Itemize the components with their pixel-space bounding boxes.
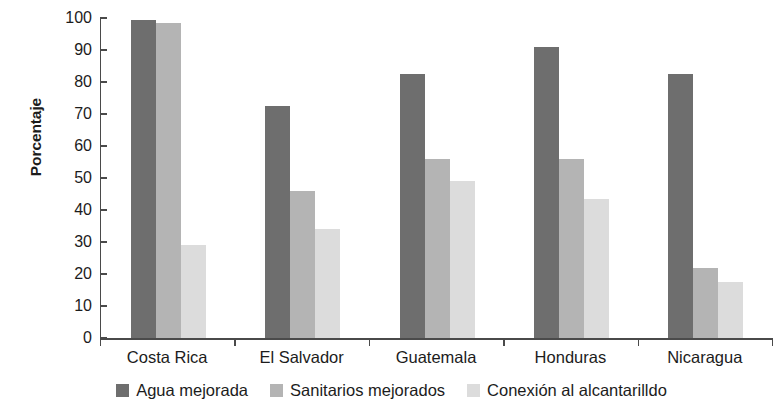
legend-swatch-icon xyxy=(270,384,283,397)
x-axis-line xyxy=(100,338,772,340)
y-axis-tick-label: 30 xyxy=(46,234,92,250)
x-axis-category-label: Guatemala xyxy=(369,348,503,367)
bar xyxy=(559,159,584,338)
y-axis-tick-label: 20 xyxy=(46,266,92,282)
y-axis-tick-label: 70 xyxy=(46,106,92,122)
legend-swatch-icon xyxy=(467,384,480,397)
bar xyxy=(156,23,181,338)
bar xyxy=(668,74,693,338)
bar-group xyxy=(400,18,475,338)
bar xyxy=(290,191,315,338)
bar-group xyxy=(131,18,206,338)
bar xyxy=(181,245,206,338)
legend-label: Sanitarios mejorados xyxy=(290,382,445,399)
y-axis-tick-label: 10 xyxy=(46,298,92,314)
y-axis-tick-label: 60 xyxy=(46,138,92,154)
plot-area xyxy=(100,18,772,338)
y-axis-title: Porcentaje xyxy=(27,77,45,197)
bar xyxy=(584,199,609,338)
y-axis-tick-label: 40 xyxy=(46,202,92,218)
bar xyxy=(400,74,425,338)
bar-chart: Porcentaje 1009080706050403020100 Costa … xyxy=(0,0,783,410)
x-axis-tick xyxy=(772,338,773,346)
y-axis-tick-label: 90 xyxy=(46,42,92,58)
bar xyxy=(450,181,475,338)
x-axis-tick xyxy=(369,338,370,346)
bar xyxy=(693,268,718,338)
x-axis-category-label: Honduras xyxy=(503,348,637,367)
x-axis-tick xyxy=(100,338,101,346)
bar xyxy=(425,159,450,338)
x-axis-tick xyxy=(503,338,504,346)
legend-item[interactable]: Agua mejorada xyxy=(116,382,248,399)
bar-group xyxy=(668,18,743,338)
chart-legend: Agua mejoradaSanitarios mejoradosConexió… xyxy=(0,382,783,399)
bar xyxy=(315,229,340,338)
x-axis-category-label: Nicaragua xyxy=(638,348,772,367)
legend-item[interactable]: Conexión al alcantarilldo xyxy=(467,382,667,399)
bar-group xyxy=(265,18,340,338)
y-axis-tick-label: 80 xyxy=(46,74,92,90)
x-axis-tick xyxy=(234,338,235,346)
x-axis-category-label: El Salvador xyxy=(234,348,368,367)
y-axis-tick-label: 100 xyxy=(46,10,92,26)
y-axis-tick-label: 0 xyxy=(46,330,92,346)
bar xyxy=(131,20,156,338)
bar-group xyxy=(534,18,609,338)
bar xyxy=(534,47,559,338)
bar xyxy=(718,282,743,338)
legend-swatch-icon xyxy=(116,384,129,397)
x-axis-category-label: Costa Rica xyxy=(100,348,234,367)
legend-item[interactable]: Sanitarios mejorados xyxy=(270,382,445,399)
legend-label: Conexión al alcantarilldo xyxy=(487,382,667,399)
y-axis-tick-label: 50 xyxy=(46,170,92,186)
legend-label: Agua mejorada xyxy=(136,382,248,399)
x-axis-tick xyxy=(638,338,639,346)
bar xyxy=(265,106,290,338)
